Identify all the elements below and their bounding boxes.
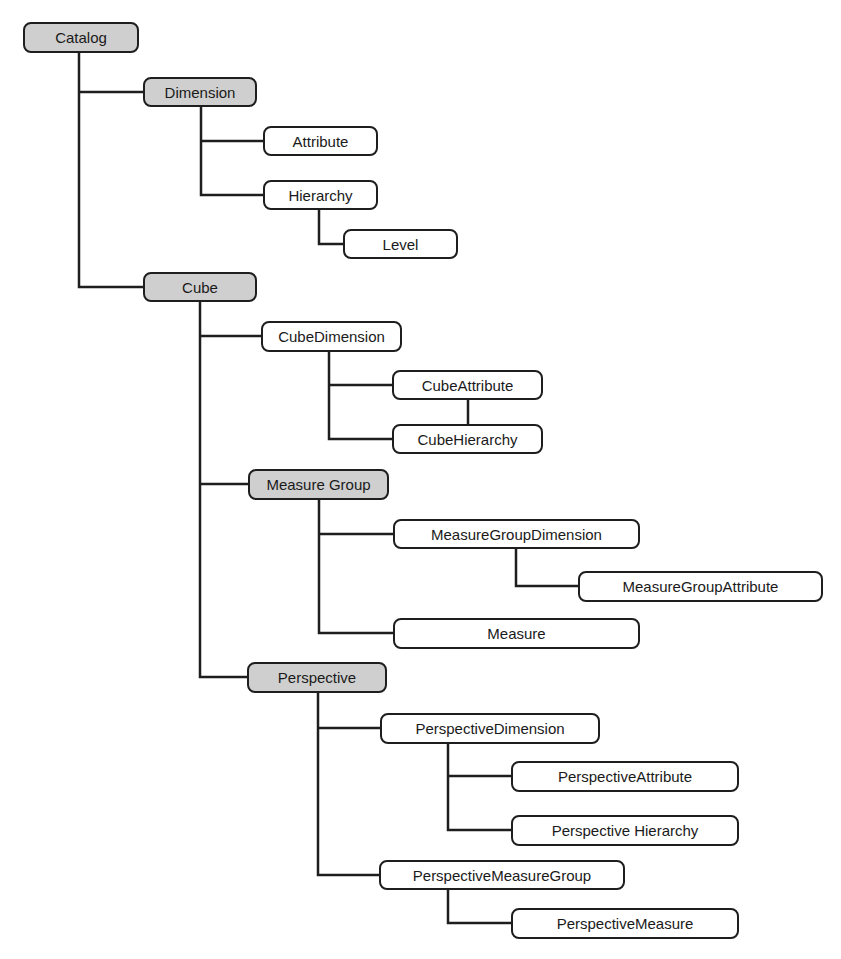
- node-label: Catalog: [55, 29, 107, 46]
- node-catalog: Catalog: [23, 22, 139, 53]
- node-measure-group-dimension: MeasureGroupDimension: [393, 519, 640, 549]
- node-level: Level: [343, 229, 458, 259]
- node-cube-hierarchy: CubeHierarchy: [392, 424, 543, 454]
- node-label: Dimension: [165, 84, 236, 101]
- node-label: Hierarchy: [288, 187, 352, 204]
- node-measure-group-attribute: MeasureGroupAttribute: [578, 571, 823, 602]
- node-label: PerspectiveMeasure: [557, 915, 694, 932]
- node-label: PerspectiveDimension: [415, 720, 564, 737]
- node-label: CubeHierarchy: [417, 431, 517, 448]
- node-label: PerspectiveMeasureGroup: [413, 867, 591, 884]
- node-perspective-measure-group: PerspectiveMeasureGroup: [379, 860, 625, 890]
- node-perspective-attribute: PerspectiveAttribute: [511, 761, 739, 792]
- node-measure: Measure: [393, 618, 640, 649]
- node-label: CubeDimension: [278, 328, 385, 345]
- node-label: Measure: [487, 625, 545, 642]
- node-perspective-dimension: PerspectiveDimension: [380, 713, 600, 744]
- node-label: Measure Group: [266, 476, 370, 493]
- node-perspective-measure: PerspectiveMeasure: [511, 908, 739, 939]
- node-attribute: Attribute: [263, 126, 378, 156]
- node-label: Perspective Hierarchy: [552, 822, 699, 839]
- node-hierarchy: Hierarchy: [263, 180, 378, 210]
- node-label: PerspectiveAttribute: [558, 768, 692, 785]
- node-label: MeasureGroupDimension: [431, 526, 602, 543]
- node-label: CubeAttribute: [422, 377, 514, 394]
- node-cube-dimension: CubeDimension: [261, 321, 402, 352]
- node-label: MeasureGroupAttribute: [623, 578, 779, 595]
- node-label: Cube: [182, 279, 218, 296]
- object-hierarchy-diagram: Catalog Dimension Attribute Hierarchy Le…: [0, 0, 841, 959]
- node-label: Attribute: [293, 133, 349, 150]
- node-label: Level: [383, 236, 419, 253]
- node-measure-group: Measure Group: [248, 469, 389, 500]
- node-perspective-hierarchy: Perspective Hierarchy: [511, 815, 739, 846]
- node-dimension: Dimension: [143, 77, 257, 107]
- node-cube-attribute: CubeAttribute: [392, 370, 543, 400]
- node-label: Perspective: [278, 669, 356, 686]
- node-cube: Cube: [143, 272, 257, 302]
- node-perspective: Perspective: [247, 662, 387, 693]
